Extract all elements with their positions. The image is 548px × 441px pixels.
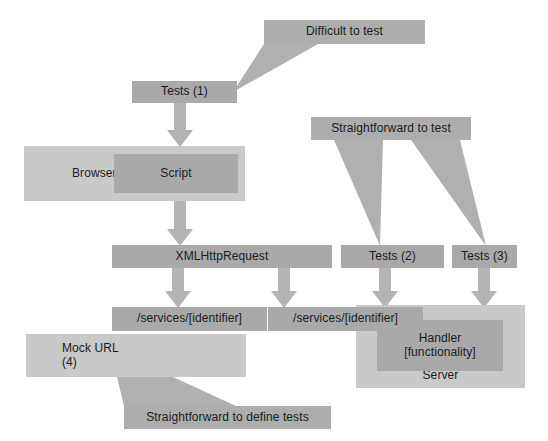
node-tests-2: Tests (2) xyxy=(341,245,444,268)
node-xmlhttprequest-label: XMLHttpRequest xyxy=(176,250,269,264)
callout-straightforward-to-define-tests: Straightforward to define tests xyxy=(124,406,331,429)
node-handler-label-line1: Handler xyxy=(419,332,462,346)
arrow-tests2-to-services-right xyxy=(372,268,398,308)
node-services-identifier-right-label: /services/[identifier] xyxy=(293,312,398,326)
node-script: Script xyxy=(114,154,238,193)
node-mock-url: Mock URL (4) xyxy=(26,334,246,377)
node-tests-2-label: Tests (2) xyxy=(369,250,416,264)
node-tests-3: Tests (3) xyxy=(452,245,517,268)
arrow-xhr-to-services-right xyxy=(271,268,297,308)
node-handler-label-line2: [functionality] xyxy=(404,346,476,360)
node-mock-url-label-line2: (4) xyxy=(62,356,77,370)
diagram-canvas: Difficult to test Straightforward to tes… xyxy=(0,0,548,441)
callout-tail-straightforward-right xyxy=(411,140,486,246)
callout-tail-difficult-to-test xyxy=(233,44,318,92)
arrow-xhr-to-services-left xyxy=(165,268,191,308)
node-services-identifier-left: /services/[identifier] xyxy=(112,307,267,331)
node-script-label: Script xyxy=(160,167,191,181)
arrow-tests1-to-script xyxy=(167,102,193,147)
node-server-label: Server xyxy=(423,369,459,383)
node-services-identifier-left-label: /services/[identifier] xyxy=(137,312,242,326)
node-services-identifier-right: /services/[identifier] xyxy=(268,307,423,331)
callout-straightforward-to-test-label: Straightforward to test xyxy=(331,122,451,136)
node-tests-1: Tests (1) xyxy=(132,81,237,103)
node-xmlhttprequest: XMLHttpRequest xyxy=(112,245,332,268)
arrow-script-to-xhr xyxy=(167,200,193,246)
callout-difficult-to-test: Difficult to test xyxy=(264,20,425,44)
callout-straightforward-to-define-tests-label: Straightforward to define tests xyxy=(146,411,309,425)
arrow-tests3-to-handler xyxy=(471,268,497,308)
callout-tail-straightforward-left xyxy=(334,140,383,246)
node-mock-url-label-line1: Mock URL xyxy=(62,342,119,356)
node-tests-3-label: Tests (3) xyxy=(461,250,508,264)
callout-straightforward-to-test: Straightforward to test xyxy=(311,117,471,140)
node-browser-label: Browser xyxy=(72,167,117,181)
callout-difficult-to-test-label: Difficult to test xyxy=(306,25,383,39)
node-tests-1-label: Tests (1) xyxy=(161,85,208,99)
